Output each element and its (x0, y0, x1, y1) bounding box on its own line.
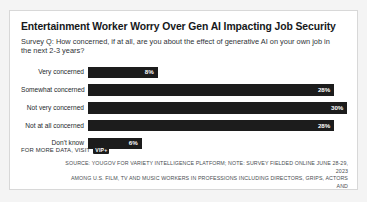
bar-track: 28% (88, 84, 350, 95)
table-row: Somewhat concerned 28% (21, 83, 350, 98)
bar-value-label: 8% (145, 68, 158, 76)
source-line-2: AMONG U.S. FILM, TV AND MUSIC WORKERS IN… (59, 175, 348, 190)
infographic-card: Entertainment Worker Worry Over Gen AI I… (9, 10, 358, 190)
bar-category-label: Not very concerned (21, 104, 88, 112)
bar-track: 28% (88, 120, 350, 131)
page-title: Entertainment Worker Worry Over Gen AI I… (21, 21, 348, 33)
vip-plus-logo[interactable]: VIP+ (93, 146, 109, 154)
more-data-label: FOR MORE DATA, VISIT (21, 146, 90, 154)
source-note: SOURCE: YOUGOV FOR VARIETY INTELLIGENCE … (21, 160, 348, 190)
bar-not-very-concerned: 30% (88, 102, 347, 113)
page-background: Entertainment Worker Worry Over Gen AI I… (0, 0, 367, 202)
card-footer: FOR MORE DATA, VISIT VIP+ SOURCE: YOUGOV… (21, 146, 348, 190)
source-line-1: SOURCE: YOUGOV FOR VARIETY INTELLIGENCE … (59, 160, 348, 175)
bar-very-concerned: 8% (88, 67, 158, 78)
card-header: Entertainment Worker Worry Over Gen AI I… (21, 21, 348, 55)
survey-question: Survey Q: How concerned, if at all, are … (21, 37, 341, 55)
bar-category-label: Not at all concerned (21, 122, 88, 130)
table-row: Not very concerned 30% (21, 101, 350, 116)
bar-value-label: 30% (331, 104, 347, 112)
table-row: Very concerned 8% (21, 65, 350, 80)
bar-value-label: 28% (318, 86, 334, 94)
bar-category-label: Somewhat concerned (21, 86, 88, 94)
bar-not-at-all-concerned: 28% (88, 120, 334, 131)
table-row: Not at all concerned 28% (21, 118, 350, 133)
more-data-line: FOR MORE DATA, VISIT VIP+ (21, 146, 348, 154)
bar-value-label: 28% (318, 122, 334, 130)
bar-track: 30% (88, 102, 350, 113)
bar-track: 8% (88, 67, 350, 78)
bar-category-label: Very concerned (21, 68, 88, 76)
bar-somewhat-concerned: 28% (88, 84, 334, 95)
bar-chart: Very concerned 8% Somewhat concerned 28% (21, 65, 350, 151)
